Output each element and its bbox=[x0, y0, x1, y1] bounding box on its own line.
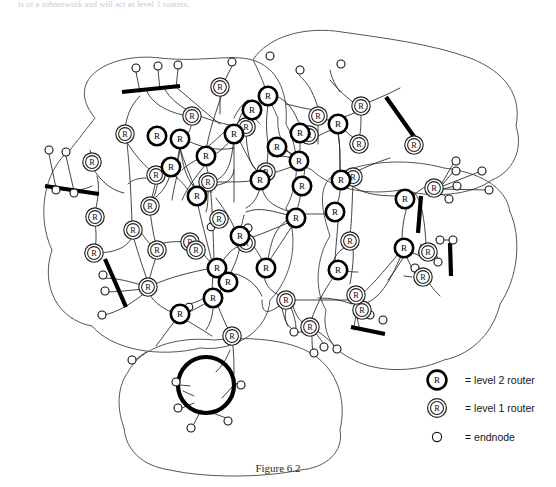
endnode bbox=[485, 186, 493, 194]
router-label: R bbox=[263, 263, 269, 273]
level-1-router: R bbox=[309, 107, 327, 125]
figure-caption: Figure 6.2 bbox=[0, 462, 556, 474]
endnode bbox=[320, 343, 328, 351]
router-label: R bbox=[353, 291, 359, 300]
lan-bar bbox=[386, 97, 415, 138]
endnode bbox=[266, 52, 274, 60]
legend-item-level-1-router: R = level 1 router bbox=[428, 399, 536, 418]
endnode bbox=[434, 258, 442, 266]
router-label: R bbox=[214, 263, 220, 273]
router-label: R bbox=[154, 246, 160, 255]
router-label: R bbox=[296, 156, 302, 166]
router-label: R bbox=[347, 237, 353, 246]
router-label: R bbox=[194, 191, 200, 201]
endnode bbox=[174, 61, 182, 69]
level-2-router: R bbox=[268, 138, 286, 156]
legend-label-level-1-router: = level 1 router bbox=[465, 402, 535, 414]
level-1-routers: R R R R R R R bbox=[83, 78, 443, 345]
level-2-router bbox=[313, 293, 331, 311]
level-2-router: R bbox=[332, 171, 350, 189]
router-label: R bbox=[297, 128, 303, 138]
level-2-router: R bbox=[395, 239, 413, 257]
level-2-router: R bbox=[326, 203, 344, 221]
level-1-router: R bbox=[141, 197, 159, 215]
level-2-router: R bbox=[225, 125, 243, 143]
level-1-router: R bbox=[347, 286, 365, 304]
level-1-router: R bbox=[419, 243, 437, 261]
router-label: R bbox=[130, 226, 136, 235]
level-1-router: R bbox=[211, 78, 229, 96]
endnode bbox=[45, 146, 53, 154]
router-label: R bbox=[257, 175, 263, 185]
router-label: R bbox=[217, 83, 223, 92]
endnode bbox=[101, 287, 109, 295]
lan-bar bbox=[450, 243, 451, 276]
level-2-router: R bbox=[287, 209, 305, 227]
level-2-router: R bbox=[251, 171, 269, 189]
endnode-icon bbox=[432, 432, 441, 441]
area-boundaries bbox=[44, 30, 519, 476]
level-1-router: R bbox=[210, 210, 228, 228]
level-2-router: R bbox=[259, 87, 277, 105]
level-2-router: R bbox=[231, 227, 249, 245]
endnode bbox=[52, 186, 60, 194]
legend-icon-label: R bbox=[434, 375, 440, 385]
router-label: R bbox=[265, 91, 271, 101]
router-label: R bbox=[335, 265, 341, 275]
router-label: R bbox=[177, 134, 183, 144]
endnode bbox=[337, 60, 345, 68]
level-1-router: R bbox=[223, 327, 241, 345]
network-topology-figure: R R R R R R R bbox=[0, 0, 556, 487]
level-1-router: R bbox=[414, 268, 432, 286]
level-2-router: R bbox=[171, 305, 189, 323]
level-1-router: R bbox=[83, 153, 101, 171]
lan-bar bbox=[351, 327, 385, 334]
endnode bbox=[478, 167, 486, 175]
router-label: R bbox=[122, 130, 128, 139]
level-1-router: R bbox=[425, 179, 443, 197]
endnode bbox=[445, 195, 453, 203]
router-label: R bbox=[401, 243, 407, 253]
endnode bbox=[132, 64, 140, 72]
router-label: R bbox=[92, 213, 98, 222]
endnode bbox=[452, 157, 460, 165]
endnode bbox=[296, 66, 304, 74]
router-label: R bbox=[225, 277, 231, 287]
level-2-router-icon: R bbox=[428, 371, 447, 390]
endnode bbox=[333, 345, 341, 353]
endnode bbox=[172, 378, 180, 386]
router-label: R bbox=[356, 140, 362, 149]
router-label: R bbox=[154, 131, 160, 141]
level-2-router: R bbox=[204, 289, 222, 307]
router-label: R bbox=[145, 283, 151, 292]
level-1-router: R bbox=[187, 241, 205, 259]
network-links bbox=[49, 66, 486, 424]
area-boundary-1 bbox=[44, 57, 297, 352]
router-label: R bbox=[332, 207, 338, 217]
lan-bar bbox=[122, 86, 180, 92]
router-label: R bbox=[359, 306, 365, 315]
level-2-router: R bbox=[290, 152, 308, 170]
router-label: R bbox=[420, 273, 426, 282]
router-label: R bbox=[189, 112, 195, 121]
legend-item-level-2-router: R = level 2 router bbox=[428, 371, 536, 390]
router-label: R bbox=[210, 293, 216, 303]
router-label: R bbox=[168, 162, 174, 172]
level-1-router: R bbox=[183, 107, 201, 125]
level-1-router: R bbox=[277, 291, 295, 309]
legend: R = level 2 router R = level 1 router = … bbox=[428, 371, 536, 443]
level-1-router: R bbox=[350, 135, 368, 153]
level-2-router: R bbox=[291, 124, 309, 142]
router-label: R bbox=[237, 231, 243, 241]
router-label: R bbox=[431, 184, 437, 193]
router-label: R bbox=[153, 171, 159, 180]
legend-item-endnode: = endnode bbox=[432, 431, 515, 443]
level-2-router: R bbox=[329, 115, 347, 133]
router-label: R bbox=[411, 141, 417, 150]
level-2-router: R bbox=[293, 177, 311, 195]
level-2-router: R bbox=[148, 127, 166, 145]
router-label: R bbox=[229, 332, 235, 341]
router-label: R bbox=[358, 102, 364, 111]
router-label: R bbox=[243, 123, 249, 132]
endnode bbox=[224, 417, 232, 425]
